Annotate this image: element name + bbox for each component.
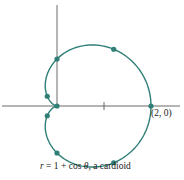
marked-point xyxy=(54,150,59,155)
caption-rest: , a cardioid xyxy=(88,161,130,171)
marked-point xyxy=(45,94,50,99)
point-label-2-0: (2, 0) xyxy=(151,108,172,118)
marked-point xyxy=(54,56,59,61)
figure-caption: r = 1 + cos θ, a cardioid xyxy=(40,161,184,171)
cardioid-figure xyxy=(0,0,184,180)
marked-point xyxy=(45,113,50,118)
caption-eq: = 1 + cos xyxy=(44,161,84,171)
marked-point xyxy=(54,103,59,108)
marked-point xyxy=(111,47,116,52)
